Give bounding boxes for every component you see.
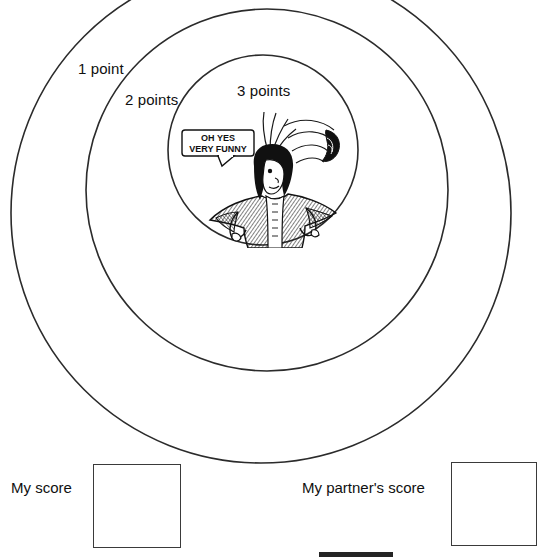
partner-score-label: My partner's score [302,479,425,496]
footer-rule [319,552,393,557]
ring-label-3-points: 3 points [237,82,290,99]
cavalier-character-illustration: OH YES VERY FUNNY [176,108,356,248]
eye [268,169,272,173]
my-score-label: My score [11,479,72,496]
worksheet-page: 1 point 2 points 3 points [0,0,545,560]
coat [210,194,336,248]
my-score-input-box[interactable] [93,464,181,548]
ring-label-1-point: 1 point [78,60,124,77]
speech-bubble: OH YES VERY FUNNY [182,130,254,166]
ring-label-2-points: 2 points [125,91,178,108]
speech-bubble-line-2: VERY FUNNY [189,144,247,154]
partner-score-input-box[interactable] [451,462,537,546]
speech-bubble-line-1: OH YES [201,133,235,143]
